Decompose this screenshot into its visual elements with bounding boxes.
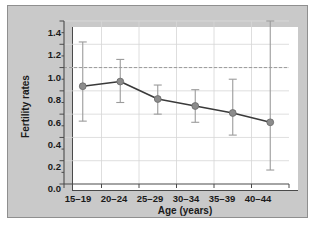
x-axis-title: Age (years) (72, 205, 298, 216)
x-tick-label: 40–44 (230, 194, 286, 204)
plot-panel (72, 27, 298, 191)
figure: 1.4 1.2 1.0 0.8 0.6 0.4 0.2 0.0 15–19 20… (0, 0, 315, 233)
chart-card: 1.4 1.2 1.0 0.8 0.6 0.4 0.2 0.0 15–19 20… (7, 5, 308, 218)
y-tick-label: 1.4 (21, 28, 61, 38)
y-tick-label: 0.2 (21, 162, 61, 172)
y-axis-title: Fertility rates (20, 57, 31, 157)
y-tick-label: 0.0 (21, 184, 61, 194)
